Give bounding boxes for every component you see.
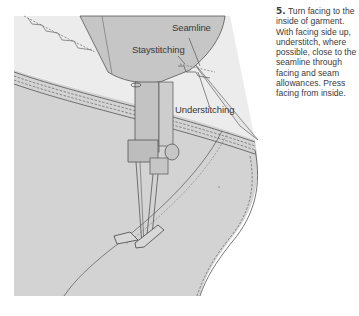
label-staystitching: Staystitching xyxy=(132,44,185,55)
step-text: Turn facing to the inside of garment. Wi… xyxy=(276,6,356,98)
label-seamline: Seamline xyxy=(172,22,211,33)
sewing-illustration: Seamline Staystitching Understitching xyxy=(0,0,260,316)
label-understitching: Understitching xyxy=(175,104,234,115)
instruction-step: 5. Turn facing to the inside of garment.… xyxy=(276,6,359,99)
step-number: 5. xyxy=(276,6,286,16)
